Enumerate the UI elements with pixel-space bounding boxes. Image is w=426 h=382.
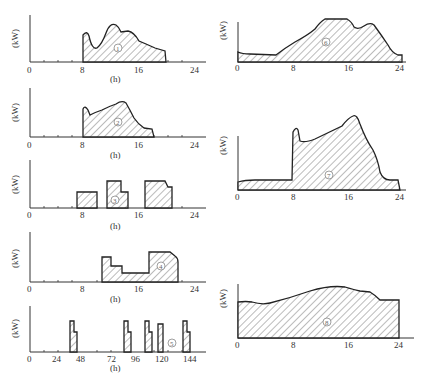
- svg-text:8: 8: [80, 284, 85, 294]
- svg-text:0: 0: [235, 63, 240, 73]
- svg-text:8: 8: [291, 340, 296, 350]
- svg-text:8: 8: [325, 319, 329, 327]
- svg-text:8: 8: [80, 65, 85, 75]
- svg-text:5: 5: [170, 340, 174, 348]
- y-axis-label: (kW): [10, 319, 20, 338]
- svg-text:0: 0: [27, 354, 32, 364]
- x-axis-label: (h): [110, 294, 121, 304]
- svg-text:16: 16: [344, 192, 354, 202]
- chart-3: 3 (kW) 081624 (h): [10, 160, 206, 231]
- svg-text:8: 8: [291, 63, 296, 73]
- svg-text:24: 24: [395, 192, 405, 202]
- svg-text:24: 24: [190, 210, 200, 220]
- svg-text:1: 1: [116, 45, 120, 53]
- chart-7: 7 (kW) 081624: [218, 116, 406, 202]
- svg-text:24: 24: [190, 140, 200, 150]
- svg-text:6: 6: [324, 39, 328, 47]
- y-axis-label: (kW): [218, 289, 228, 308]
- svg-text:8: 8: [291, 192, 296, 202]
- svg-text:24: 24: [395, 63, 405, 73]
- y-axis-label: (kW): [10, 103, 20, 122]
- svg-text:48: 48: [76, 354, 86, 364]
- y-axis-label: (kW): [218, 136, 228, 155]
- svg-text:0: 0: [235, 340, 240, 350]
- y-axis-label: (kW): [10, 175, 20, 194]
- chart-2: 2 (kW) 081624 (h): [10, 88, 206, 160]
- svg-text:16: 16: [134, 284, 144, 294]
- svg-text:24: 24: [52, 354, 62, 364]
- svg-text:24: 24: [190, 284, 200, 294]
- svg-text:16: 16: [134, 65, 144, 75]
- svg-text:7: 7: [327, 172, 331, 180]
- svg-text:0: 0: [27, 210, 32, 220]
- x-axis-label: (h): [110, 150, 121, 160]
- svg-text:0: 0: [27, 284, 32, 294]
- x-axis-label: (h): [110, 221, 121, 231]
- x-axis-label: (h): [110, 74, 121, 84]
- svg-text:0: 0: [27, 140, 32, 150]
- chart-1: 1 (kW) 081624 (h): [10, 15, 206, 84]
- svg-text:2: 2: [116, 119, 120, 127]
- svg-text:8: 8: [80, 210, 85, 220]
- svg-text:4: 4: [159, 263, 163, 271]
- load-profile-figure: 1 (kW) 081624 (h) 2 (kW) 081624 (h) 3 (k…: [0, 0, 426, 382]
- svg-text:24: 24: [190, 65, 200, 75]
- svg-text:96: 96: [131, 354, 141, 364]
- svg-text:0: 0: [27, 65, 32, 75]
- svg-text:0: 0: [235, 192, 240, 202]
- svg-text:120: 120: [155, 354, 169, 364]
- y-axis-label: (kW): [10, 249, 20, 268]
- svg-text:16: 16: [344, 340, 354, 350]
- svg-text:16: 16: [344, 63, 354, 73]
- svg-text:144: 144: [183, 354, 197, 364]
- chart-6: 6 (kW) 081624: [218, 19, 406, 73]
- x-axis-label: (h): [110, 363, 121, 373]
- y-axis-label: (kW): [10, 29, 20, 48]
- chart-8: 8 (kW) 081624: [218, 284, 414, 350]
- chart-4: 4 (kW) 081624 (h): [10, 232, 206, 304]
- svg-text:8: 8: [80, 140, 85, 150]
- svg-text:3: 3: [113, 197, 117, 205]
- svg-text:16: 16: [134, 140, 144, 150]
- svg-text:24: 24: [394, 340, 404, 350]
- y-axis-label: (kW): [218, 21, 228, 40]
- chart-5: 5 (kW) 024487296120144 (h): [10, 306, 206, 373]
- svg-text:16: 16: [134, 210, 144, 220]
